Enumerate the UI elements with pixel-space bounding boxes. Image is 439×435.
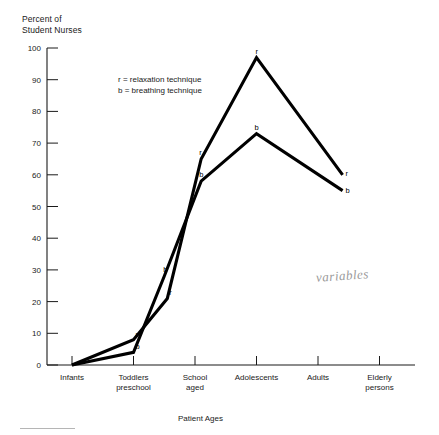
series-line-r bbox=[72, 58, 343, 365]
data-point-label-b: b bbox=[346, 186, 350, 195]
x-tick-label-second-line: aged bbox=[186, 383, 204, 392]
x-axis-title: Patient Ages bbox=[178, 414, 223, 423]
chart-figure: Percent of Student Nurses r = relaxation… bbox=[0, 0, 439, 435]
y-tick-label: 60 bbox=[32, 171, 41, 180]
data-point-label-b: b bbox=[136, 342, 140, 351]
data-point-label-r: r bbox=[256, 47, 259, 56]
y-tick-label: 10 bbox=[32, 329, 41, 338]
y-tick-label: 40 bbox=[32, 234, 41, 243]
y-tick-label: 20 bbox=[32, 298, 41, 307]
y-tick-label: 90 bbox=[32, 76, 41, 85]
x-tick-label: Infants bbox=[60, 373, 84, 382]
data-point-label-b: b bbox=[255, 123, 259, 132]
footer-divider bbox=[20, 428, 75, 429]
data-point-label-b: b bbox=[163, 265, 167, 274]
y-tick-label: 80 bbox=[32, 107, 41, 116]
data-point-label-r: r bbox=[169, 288, 172, 297]
data-point-label-r: r bbox=[346, 169, 349, 178]
y-tick-label: 0 bbox=[37, 361, 42, 370]
plot-area: 0102030405060708090100InfantsToddlerspre… bbox=[0, 0, 439, 400]
x-tick-label: Toddlers bbox=[118, 373, 148, 382]
x-tick-label: Adolescents bbox=[235, 373, 279, 382]
x-tick-label-second-line: persons bbox=[365, 383, 393, 392]
y-tick-label: 100 bbox=[28, 44, 42, 53]
x-tick-label: Elderly bbox=[367, 373, 391, 382]
y-tick-label: 50 bbox=[32, 203, 41, 212]
y-tick-label: 70 bbox=[32, 139, 41, 148]
series-line-b bbox=[72, 134, 343, 365]
x-tick-label: School bbox=[183, 373, 208, 382]
x-tick-label-second-line: preschool bbox=[116, 383, 151, 392]
y-tick-label: 30 bbox=[32, 266, 41, 275]
data-point-label-b: b bbox=[199, 170, 203, 179]
x-tick-label: Adults bbox=[307, 373, 329, 382]
